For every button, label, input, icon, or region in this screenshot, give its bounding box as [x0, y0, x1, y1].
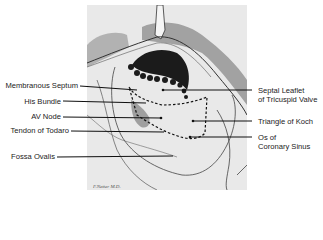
label-triangle-of-koch-line1: Triangle of Koch [258, 117, 313, 126]
label-septal-leaflet-line2: of Tricuspid Valve [258, 95, 317, 104]
label-his-bundle: His Bundle [24, 97, 61, 106]
label-os-line2: Coronary Sinus [258, 142, 310, 151]
label-septal-leaflet-line1: Septal Leaflet [258, 86, 317, 95]
label-fossa-ovalis: Fossa Ovalis [11, 152, 55, 161]
label-septal-leaflet: Septal Leaflet of Tricuspid Valve [258, 86, 317, 104]
label-tendon-of-todaro: Tendon of Todaro [10, 126, 69, 135]
label-os-coronary-sinus: Os of Coronary Sinus [258, 133, 310, 151]
label-triangle-of-koch: Triangle of Koch [258, 117, 313, 126]
label-membranous-septum: Membranous Septum [5, 81, 78, 90]
label-av-node: AV Node [31, 112, 61, 121]
label-os-line1: Os of [258, 133, 310, 142]
